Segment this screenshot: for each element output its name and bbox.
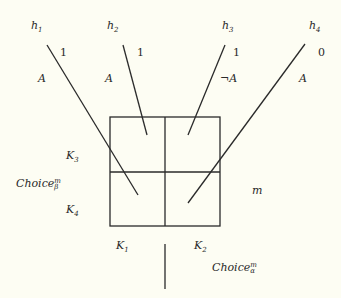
action-h4: A (299, 73, 307, 84)
value-h3: 1 (233, 47, 240, 58)
history-line-h1 (47, 45, 138, 195)
action-h3: ¬A (220, 73, 237, 84)
action-h1: A (38, 73, 46, 84)
diagram-canvas (0, 0, 341, 298)
history-line-h4 (188, 44, 305, 203)
cell-label-k2: K2 (194, 240, 207, 251)
cell-label-k3: K3 (66, 150, 79, 161)
cell-label-k1: K1 (116, 240, 129, 251)
history-label-h2: h2 (107, 20, 119, 31)
history-label-h1: h1 (31, 20, 43, 31)
action-h2: A (105, 73, 113, 84)
choice-alpha-label: Choicemα (212, 262, 257, 275)
m-label: m (252, 185, 262, 196)
value-h1: 1 (60, 47, 67, 58)
history-label-h4: h4 (309, 20, 321, 31)
value-h4: 0 (318, 47, 325, 58)
cell-label-k4: K4 (66, 204, 79, 215)
value-h2: 1 (137, 47, 144, 58)
choice-beta-label: Choicemβ (16, 178, 61, 191)
history-label-h3: h3 (222, 20, 234, 31)
